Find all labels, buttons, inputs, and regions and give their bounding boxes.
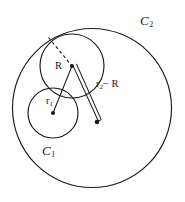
center-dot-c1 <box>51 111 55 115</box>
center-dot-c2 <box>95 120 100 125</box>
center-dot-radius-r <box>70 64 74 68</box>
label-r2-subscript: 2 <box>100 83 104 91</box>
label-segment-r2-minus-r: r2− R <box>96 79 119 90</box>
geometry-canvas <box>0 0 185 202</box>
label-c2-subscript: 2 <box>149 20 153 29</box>
label-outer-circle-c2: C2 <box>140 14 153 27</box>
segment-center-r-to-center-c1 <box>53 66 72 113</box>
label-radius-r1: r1 <box>46 96 53 107</box>
label-c1-subscript: 1 <box>51 150 55 159</box>
label-minus-r: − R <box>103 78 119 89</box>
label-inner-circle-c1: C1 <box>42 144 55 157</box>
label-radius-r: R <box>55 61 62 72</box>
segment-center-r-to-center-c2-lower <box>76 64 101 120</box>
label-c1-letter: C <box>42 143 51 158</box>
label-r1-letter: r <box>46 95 50 106</box>
label-c2-letter: C <box>140 13 149 28</box>
geometry-figure: C2 C1 R r1 r2− R <box>0 0 185 202</box>
label-r1-subscript: 1 <box>50 100 54 108</box>
segment-center-r-to-center-c2-upper <box>73 65 99 121</box>
label-r2-letter: r <box>96 78 100 89</box>
